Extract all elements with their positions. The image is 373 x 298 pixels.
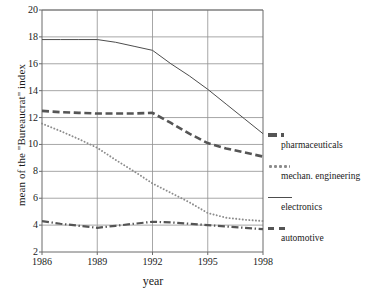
dotted-key-icon [268, 165, 290, 168]
legend-item[interactable]: electronics [268, 190, 373, 221]
legend-item[interactable]: mechan. engineering [268, 159, 373, 190]
legend-item[interactable]: automotive [268, 221, 373, 252]
legend-item-label: automotive [281, 233, 324, 243]
legend-item[interactable]: pharmaceuticals [268, 128, 373, 159]
chart-legend: pharmaceuticalsmechan. engineeringelectr… [268, 128, 373, 252]
solid-line-key-icon [268, 197, 292, 198]
thick-dashed-key-icon [268, 133, 296, 137]
legend-item-label: electronics [281, 202, 322, 212]
dash-dot-key-icon [268, 227, 296, 230]
legend-item-label: mechan. engineering [281, 171, 360, 181]
line-chart-figure: mean of the "Bureaucrat" index 246810121… [0, 0, 373, 298]
legend-item-label: pharmaceuticals [281, 140, 343, 150]
